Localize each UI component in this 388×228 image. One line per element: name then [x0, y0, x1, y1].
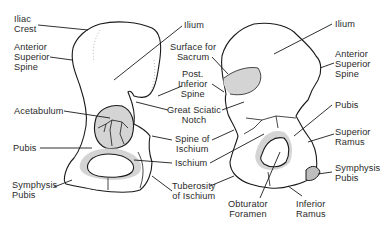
label-symphysis-pubis-right: Symphysis Pubis — [335, 163, 380, 183]
leader-iliac-crest — [38, 25, 88, 30]
label-obturator-foramen: Obturator Foramen — [228, 199, 268, 219]
leader-post-inferior-spine-right — [212, 84, 224, 92]
label-spine-of-ischium: Spine of Ischium — [175, 134, 210, 154]
leader-anterior-superior-spine-left — [50, 57, 72, 60]
label-pubis-left: Pubis — [13, 143, 36, 153]
leader-superior-ramus — [308, 134, 334, 142]
leader-inferior-ramus — [288, 186, 302, 196]
label-ischium: Ischium — [175, 158, 207, 168]
leader-anterior-superior-spine-right — [320, 63, 334, 68]
label-acetabulum: Acetabulum — [14, 106, 64, 116]
leader-spine-of-ischium-right — [212, 130, 234, 140]
right-hip-bone — [221, 23, 320, 188]
leader-great-sciatic-notch-left — [136, 102, 168, 110]
left-hip-bone — [64, 22, 160, 192]
label-ilium-right: Ilium — [335, 19, 355, 29]
label-anterior-superior-spine-left: Anterior Superior Spine — [14, 42, 50, 73]
label-anterior-superior-spine-right: Anterior Superior Spine — [335, 49, 371, 80]
label-post-inferior-spine: Post. Inferior Spine — [178, 69, 207, 100]
leader-spine-of-ischium-left — [152, 136, 172, 140]
label-inferior-ramus: Inferior Ramus — [296, 199, 326, 219]
label-pubis-right: Pubis — [335, 100, 358, 110]
leader-tuberosity-left — [152, 176, 172, 191]
label-surface-for-sacrum: Surface for Sacrum — [170, 42, 216, 62]
label-symphysis-pubis-left: Symphysis Pubis — [12, 180, 57, 200]
label-iliac-crest: Iliac Crest — [14, 14, 36, 34]
label-great-sciatic-notch: Great Sciatic Notch — [167, 105, 221, 125]
label-superior-ramus: Superior Ramus — [335, 127, 371, 147]
right-symphysis-surface — [306, 166, 320, 180]
label-tuberosity-of-ischium: Tuberosity of Ischium — [172, 181, 216, 201]
label-ilium-left: Ilium — [184, 20, 204, 30]
